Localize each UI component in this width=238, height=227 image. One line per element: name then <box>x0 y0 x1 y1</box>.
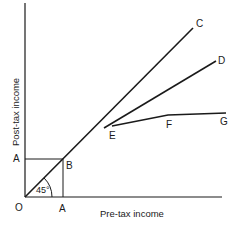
x-axis-title: Pre-tax income <box>100 208 164 219</box>
line-oc <box>25 28 193 197</box>
y-axis-title: Post-tax income <box>10 78 21 146</box>
label-g: G <box>220 116 228 127</box>
label-e: E <box>109 130 116 141</box>
label-origin: O <box>15 202 23 213</box>
income-tax-diagram: C D E F G B A A O 45° Pre-tax income Pos… <box>0 0 238 227</box>
label-c: C <box>196 18 203 29</box>
line-ed <box>104 61 216 128</box>
label-angle: 45° <box>36 185 50 195</box>
label-a-x: A <box>59 203 66 214</box>
label-a-y: A <box>13 153 20 164</box>
label-d: D <box>218 55 225 66</box>
label-b: B <box>66 160 73 171</box>
label-f: F <box>166 119 172 130</box>
